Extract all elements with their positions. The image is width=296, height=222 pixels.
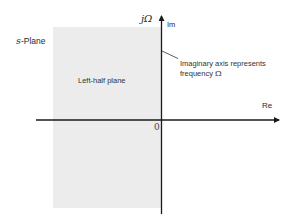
plane-suffix: -Plane — [21, 36, 46, 46]
annotation-line-2: frequency Ω — [180, 69, 266, 79]
annotation-line-1: Imaginary axis represents — [180, 59, 266, 69]
origin-label: 0 — [154, 123, 160, 132]
axes-layer — [0, 0, 296, 222]
s-plane-title: s-Plane — [16, 36, 45, 46]
imaginary-axis-annotation: Imaginary axis represents frequency Ω — [180, 59, 266, 79]
real-axis-label: Re — [262, 102, 272, 110]
j-omega-symbol: jΩ — [141, 14, 152, 24]
annotation-leader-line — [162, 51, 178, 59]
omega-symbol: Ω — [215, 69, 222, 78]
left-half-plane-label: Left-half plane — [78, 77, 126, 85]
annotation-frequency-text: frequency — [180, 69, 215, 78]
s-plane-diagram: s-Plane Left-half plane jΩ Im Imaginary … — [0, 0, 296, 222]
imaginary-axis-label: Im — [167, 21, 175, 29]
